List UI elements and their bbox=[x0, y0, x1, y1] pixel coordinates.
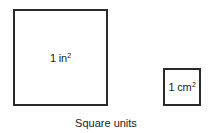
square-inch-box: 1 in2 bbox=[13, 9, 108, 106]
square-centimeter-label: 1 cm2 bbox=[168, 81, 195, 93]
diagram-caption: Square units bbox=[0, 117, 212, 129]
square-inch-unit: 1 in bbox=[50, 52, 67, 64]
square-inch-label: 1 in2 bbox=[50, 52, 71, 64]
square-centimeter-unit: 1 cm bbox=[168, 81, 191, 93]
square-inch-exponent: 2 bbox=[67, 52, 71, 59]
square-centimeter-exponent: 2 bbox=[192, 81, 196, 88]
square-centimeter-box: 1 cm2 bbox=[163, 68, 201, 106]
